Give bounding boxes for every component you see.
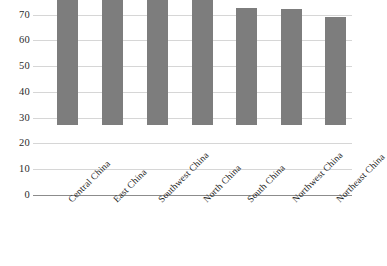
bar-central-china[interactable] [57, 0, 78, 125]
bar-southwest-china[interactable] [147, 0, 168, 125]
y-tick-label: 70 [4, 10, 30, 21]
bar-north-china[interactable] [192, 0, 213, 125]
x-axis: Central China East China Southwest China… [33, 196, 352, 266]
bar-south-china[interactable] [236, 8, 257, 125]
y-tick-label: 40 [4, 87, 30, 98]
bar-northeast-china[interactable] [325, 17, 346, 125]
y-tick-label: 60 [4, 35, 30, 46]
y-axis: 70 60 50 40 30 20 10 0 [0, 0, 30, 266]
y-tick-label: 0 [4, 190, 30, 201]
y-tick-label: 10 [4, 164, 30, 175]
y-tick-label: 50 [4, 61, 30, 72]
bar-east-china[interactable] [102, 0, 123, 125]
y-tick-label: 30 [4, 113, 30, 124]
y-tick-label: 20 [4, 138, 30, 149]
bar-northwest-china[interactable] [281, 9, 302, 125]
